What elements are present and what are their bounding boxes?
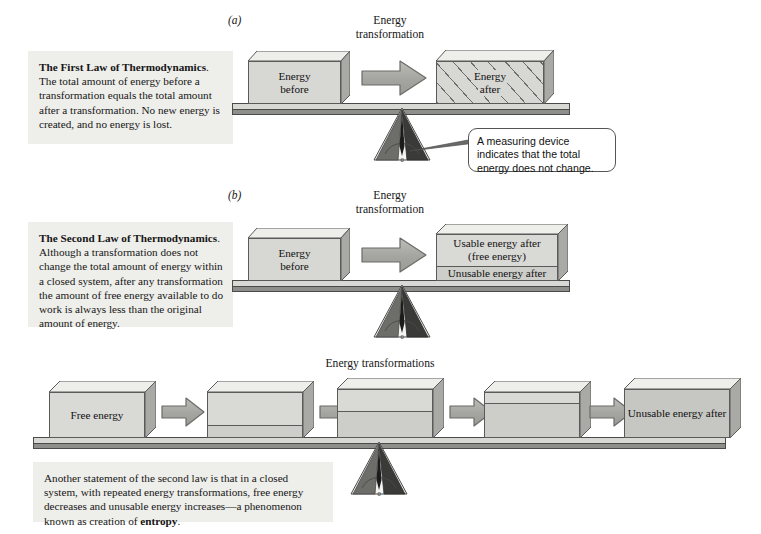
energy-after-box-b: Usable energy after (free energy) Unusab… xyxy=(436,224,568,281)
section-b-caption: Energy transformation xyxy=(320,189,460,217)
gauge-b-zero-label: 0 xyxy=(400,333,403,340)
measuring-device-c: 0 xyxy=(348,440,410,498)
energy-before-b-line1: Energy xyxy=(278,247,310,260)
section-b-letter: (b) xyxy=(228,189,241,201)
energy-after-box-b-front: Usable energy after (free energy) Unusab… xyxy=(436,234,558,281)
energy-after-box-a-label: Energy after xyxy=(437,62,543,103)
energy-before-box-a-front: Energy before xyxy=(248,61,341,104)
transformation-box-5-front: Unusable energy after xyxy=(624,389,730,438)
transformation-box-3 xyxy=(337,378,444,438)
energy-before-box-a-label: Energy before xyxy=(249,62,340,103)
section-a-caption-line1: Energy xyxy=(320,14,460,28)
entropy-panel: Another statement of the second law is t… xyxy=(33,462,333,522)
usable-energy-b-line1: Usable energy after xyxy=(453,237,540,250)
transformation-box-3-free xyxy=(338,390,432,411)
transformation-arrow-a xyxy=(360,58,428,98)
transformation-box-4 xyxy=(484,381,591,438)
transformation-box-1-front: Free energy xyxy=(49,392,145,438)
transformation-box-5-label: Unusable energy after xyxy=(625,390,729,437)
transformation-box-3-front xyxy=(337,389,433,438)
measuring-device-b: 0 xyxy=(371,283,433,341)
section-a-caption-line2: transformation xyxy=(320,28,460,42)
section-c-caption: Energy transformations xyxy=(300,357,460,371)
usable-energy-segment-b: Usable energy after (free energy) xyxy=(437,235,557,266)
energy-before-a-line1: Energy xyxy=(278,70,310,83)
gauge-c-zero-label: 0 xyxy=(377,490,380,497)
measuring-device-callout: A measuring device indicates that the to… xyxy=(468,128,616,172)
transformation-box-3-unusable xyxy=(338,411,432,437)
transformation-box-1-label: Free energy xyxy=(50,393,144,437)
transformation-arrow-c1 xyxy=(160,396,206,428)
transformation-box-4-free xyxy=(485,393,579,403)
energy-before-box-b-front: Energy before xyxy=(248,238,341,281)
energy-after-box-a-front: Energy after xyxy=(436,61,544,104)
transformation-box-5: Unusable energy after xyxy=(624,378,741,438)
unusable-energy-segment-b: Unusable energy after xyxy=(437,266,557,280)
transformation-box-4-unusable xyxy=(485,403,579,437)
second-law-title: The Second Law of Thermodynamics xyxy=(39,232,217,244)
gauge-a-zero-label: 0 xyxy=(400,156,403,163)
transformation-box-4-front xyxy=(484,392,580,438)
transformation-box-2-unusable xyxy=(208,425,302,437)
energy-after-box-a: Energy after xyxy=(436,50,554,104)
energy-before-a-line2: before xyxy=(280,83,309,96)
energy-before-box-b: Energy before xyxy=(248,228,350,281)
first-law-title: The First Law of Thermodynamics xyxy=(39,61,206,73)
second-law-body: . Although a transformation does not cha… xyxy=(39,232,223,329)
section-a-caption: Energy transformation xyxy=(320,14,460,42)
section-a-letter: (a) xyxy=(228,14,241,26)
section-b-caption-line2: transformation xyxy=(320,203,460,217)
energy-before-box-a: Energy before xyxy=(248,51,350,104)
energy-after-a-line2: after xyxy=(478,83,503,96)
transformation-box-2-free xyxy=(208,393,302,425)
energy-before-box-b-label: Energy before xyxy=(249,239,340,280)
figure-canvas: The First Law of Thermodynamics. The tot… xyxy=(0,0,761,534)
energy-after-a-line1: Energy xyxy=(472,70,508,83)
transformation-box-2-front xyxy=(207,392,303,438)
transformation-box-1: Free energy xyxy=(49,381,156,438)
transformation-arrow-b xyxy=(360,235,428,275)
first-law-panel: The First Law of Thermodynamics. The tot… xyxy=(28,51,233,144)
energy-before-b-line2: before xyxy=(280,260,309,273)
section-b-caption-line1: Energy xyxy=(320,189,460,203)
second-law-panel: The Second Law of Thermodynamics. Althou… xyxy=(28,222,233,327)
transformation-box-2 xyxy=(207,381,314,438)
entropy-emphasis: entropy xyxy=(140,515,177,527)
usable-energy-b-line2: (free energy) xyxy=(468,250,526,263)
entropy-body-after: . xyxy=(177,515,180,527)
